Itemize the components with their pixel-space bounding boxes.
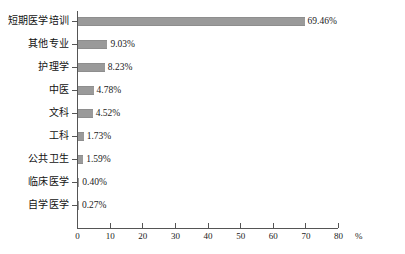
bar-value-label: 69.46% — [308, 14, 337, 28]
bar-row: 临床医学0.40% — [0, 172, 405, 194]
y-axis-tick — [72, 136, 77, 137]
bar-chart: 短期医学培训69.46%其他专业9.03%护理学8.23%中医4.78%文科4.… — [0, 0, 405, 254]
category-label: 其他专业 — [0, 37, 69, 51]
y-axis-tick — [72, 182, 77, 183]
x-axis-tick-label: 30 — [171, 231, 180, 242]
x-axis-tick-label: 0 — [75, 231, 80, 242]
x-axis-tick-label: 10 — [106, 231, 115, 242]
bar-row: 自学医学0.27% — [0, 195, 405, 217]
y-axis-tick — [72, 67, 77, 68]
bar-value-label: 1.73% — [87, 129, 112, 143]
y-axis-tick — [72, 159, 77, 160]
category-label: 中医 — [0, 83, 69, 97]
bar-value-label: 9.03% — [110, 37, 135, 51]
bar-value-label: 0.27% — [82, 198, 107, 212]
x-axis-tick-label: 50 — [236, 231, 245, 242]
bar-row: 工科1.73% — [0, 126, 405, 148]
category-label: 文科 — [0, 106, 69, 120]
x-axis-line — [77, 228, 338, 229]
bar-value-label: 0.40% — [82, 175, 107, 189]
x-axis-tick-label: 70 — [301, 231, 310, 242]
bar — [78, 109, 93, 118]
x-axis-tick-label: 80 — [334, 231, 343, 242]
bar-value-label: 4.52% — [96, 106, 121, 120]
category-label: 自学医学 — [0, 198, 69, 212]
category-label: 短期医学培训 — [0, 14, 69, 28]
x-axis-tick-label: 60 — [269, 231, 278, 242]
x-axis-tick-label: 40 — [204, 231, 213, 242]
y-axis-tick — [72, 90, 77, 91]
bar — [78, 63, 105, 72]
bar — [78, 17, 305, 26]
bar — [78, 178, 79, 187]
bar-value-label: 8.23% — [108, 60, 133, 74]
y-axis-tick — [72, 21, 77, 22]
x-axis-tick — [110, 223, 111, 228]
bar-row: 短期医学培训69.46% — [0, 11, 405, 33]
category-label: 护理学 — [0, 60, 69, 74]
y-axis-tick — [72, 44, 77, 45]
y-axis-tick — [72, 205, 77, 206]
bar — [78, 201, 79, 210]
x-axis-tick — [273, 223, 274, 228]
bar — [78, 40, 107, 49]
x-axis-tick — [142, 223, 143, 228]
x-axis-unit-label: % — [355, 231, 363, 242]
bar-row: 公共卫生1.59% — [0, 149, 405, 171]
x-axis-tick — [175, 223, 176, 228]
x-axis-tick — [240, 223, 241, 228]
bar — [78, 132, 84, 141]
bar — [78, 86, 94, 95]
bar-row: 其他专业9.03% — [0, 34, 405, 56]
y-axis-tick — [72, 113, 77, 114]
x-axis-tick — [305, 223, 306, 228]
category-label: 工科 — [0, 129, 69, 143]
category-label: 临床医学 — [0, 175, 69, 189]
bar-row: 中医4.78% — [0, 80, 405, 102]
bar-value-label: 1.59% — [86, 152, 111, 166]
x-axis-tick — [338, 223, 339, 228]
bar — [78, 155, 83, 164]
x-axis-tick — [208, 223, 209, 228]
x-axis-tick — [77, 223, 78, 228]
bar-row: 文科4.52% — [0, 103, 405, 125]
bar-row: 护理学8.23% — [0, 57, 405, 79]
x-axis-tick-label: 20 — [138, 231, 147, 242]
category-label: 公共卫生 — [0, 152, 69, 166]
bar-value-label: 4.78% — [97, 83, 122, 97]
